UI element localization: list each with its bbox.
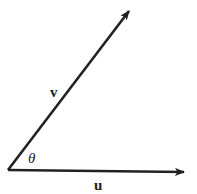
vector-u-arrow [8, 170, 184, 172]
vector-diagram: v u θ [0, 0, 197, 194]
angle-theta-label: θ [28, 150, 36, 166]
vector-u-label: u [94, 177, 102, 193]
vector-v-label: v [50, 84, 58, 100]
vector-v-arrow [8, 11, 129, 170]
